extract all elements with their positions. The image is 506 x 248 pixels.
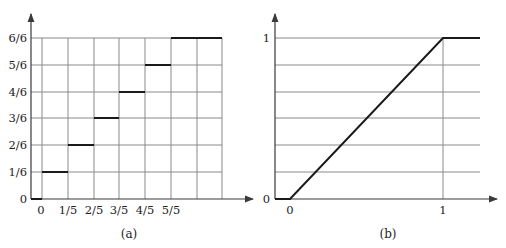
chart-a-y-tick-labels: 0 1/6 2/6 3/6 4/6 5/6 6/6 — [8, 31, 27, 206]
figure: 0 1/6 2/6 3/6 4/6 5/6 6/6 0 1/5 2/5 3/5 … — [0, 0, 506, 248]
x-tick: 0 — [286, 203, 293, 217]
chart-a-x-tick-labels: 0 1/5 2/5 3/5 4/5 5/5 — [37, 203, 180, 217]
y-tick: 2/6 — [8, 138, 27, 152]
y-tick: 4/6 — [8, 85, 27, 99]
chart-a: 0 1/6 2/6 3/6 4/6 5/6 6/6 0 1/5 2/5 3/5 … — [8, 14, 253, 241]
x-tick: 5/5 — [162, 203, 181, 217]
chart-b-grid — [275, 38, 480, 199]
x-tick: 1/5 — [59, 203, 78, 217]
chart-b: 0 1 0 1 (b) — [263, 14, 497, 241]
y-tick: 6/6 — [8, 31, 27, 45]
chart-b-caption: (b) — [379, 227, 396, 241]
x-tick: 3/5 — [110, 203, 129, 217]
x-tick: 4/5 — [136, 203, 155, 217]
chart-a-grid — [31, 38, 222, 199]
y-tick: 1/6 — [8, 165, 27, 179]
x-tick: 1 — [439, 203, 446, 217]
y-tick: 0 — [263, 192, 270, 206]
chart-a-caption: (a) — [121, 227, 138, 241]
x-tick: 2/5 — [85, 203, 104, 217]
x-tick: 0 — [37, 203, 44, 217]
y-tick: 3/6 — [8, 111, 27, 125]
y-tick: 1 — [263, 31, 270, 45]
y-tick: 5/6 — [8, 58, 27, 72]
y-tick: 0 — [20, 192, 27, 206]
